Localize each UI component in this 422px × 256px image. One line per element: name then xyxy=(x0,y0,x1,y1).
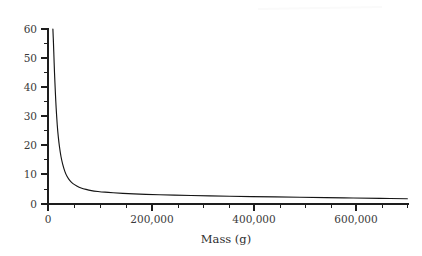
y-tick-label-50: 50 xyxy=(24,52,37,64)
y-axis: 60 50 40 30 20 10 0 xyxy=(24,23,48,210)
x-tick-label-600000: 600,000 xyxy=(334,213,377,225)
x-axis: 0 200,000 400,000 600,000 Mass (g) xyxy=(45,204,409,246)
y-tick-label-30: 30 xyxy=(24,110,37,122)
x-tick-label-200000: 200,000 xyxy=(130,213,173,225)
x-tick-label-400000: 400,000 xyxy=(232,213,275,225)
y-tick-label-60: 60 xyxy=(24,23,37,35)
y-tick-label-20: 20 xyxy=(24,139,37,151)
x-axis-title: Mass (g) xyxy=(201,232,251,246)
chart-figure: 60 50 40 30 20 10 0 xyxy=(0,0,422,256)
data-curve-line xyxy=(53,29,407,199)
y-tick-label-10: 10 xyxy=(24,168,37,180)
chart-plot-area: 60 50 40 30 20 10 0 xyxy=(0,0,422,256)
y-axis-major-ticks xyxy=(41,29,48,204)
x-tick-label-0: 0 xyxy=(45,213,52,225)
scan-artifact-streak xyxy=(258,7,382,9)
x-axis-major-ticks xyxy=(48,204,356,211)
y-tick-label-0: 0 xyxy=(30,198,37,210)
y-tick-label-40: 40 xyxy=(24,81,37,93)
